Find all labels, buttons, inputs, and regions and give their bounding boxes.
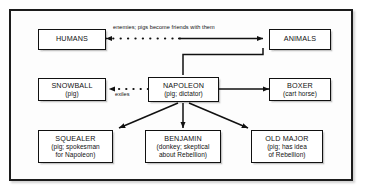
node-boxer[interactable]: BOXER (cart horse) (269, 78, 331, 101)
node-animals-title: ANIMALS (284, 35, 317, 43)
edge-napoleon-squealer (119, 103, 178, 128)
node-benjamin-title: BENJAMIN (164, 135, 202, 143)
diagram-canvas: enemies; pigs become friends with them e… (0, 0, 366, 192)
node-humans-title: HUMANS (56, 35, 88, 43)
node-humans[interactable]: HUMANS (38, 29, 106, 50)
edge-napoleon-oldmajor (189, 103, 248, 128)
node-benjamin-subtitle-1: (donkey; skeptical (157, 143, 210, 150)
node-snowball[interactable]: SNOWBALL (pig) (38, 78, 106, 101)
node-boxer-title: BOXER (287, 82, 313, 90)
node-napoleon-subtitle: (pig; dictator) (164, 90, 203, 97)
node-old-major-subtitle-2: of Rebellion) (268, 151, 305, 158)
node-snowball-subtitle: (pig) (65, 90, 78, 97)
node-snowball-title: SNOWBALL (51, 82, 92, 90)
node-benjamin[interactable]: BENJAMIN (donkey; skeptical about Rebell… (145, 130, 221, 163)
node-old-major-title: OLD MAJOR (265, 135, 308, 143)
node-squealer[interactable]: SQUEALER (pig; spokesman for Napoleon) (38, 130, 113, 163)
node-boxer-subtitle: (cart horse) (283, 90, 317, 97)
node-squealer-title: SQUEALER (55, 135, 95, 143)
node-old-major[interactable]: OLD MAJOR (pig; has idea of Rebellion) (251, 130, 323, 163)
node-squealer-subtitle-1: (pig; spokesman (51, 143, 99, 150)
edge-label-humans-animals: enemies; pigs become friends with them (113, 24, 215, 30)
edge-label-napoleon-snowball: exiles (115, 91, 130, 97)
node-napoleon-title: NAPOLEON (163, 82, 204, 90)
node-benjamin-subtitle-2: about Rebellion) (159, 151, 207, 158)
node-napoleon[interactable]: NAPOLEON (pig; dictator) (148, 77, 219, 102)
edge-animals-napoleon (183, 48, 263, 75)
node-old-major-subtitle-1: (pig; has idea (267, 143, 307, 150)
node-squealer-subtitle-2: for Napoleon) (55, 151, 95, 158)
node-animals[interactable]: ANIMALS (269, 29, 331, 50)
